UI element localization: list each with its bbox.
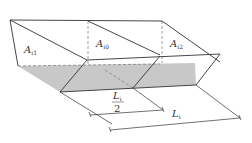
label-half-length-numerator: Li [112,90,122,102]
label-a-i0: Ai0 [95,38,109,50]
prism-diagram: Ai1 Ai0 Ai2 Li 2 Li [0,0,252,143]
diagram-canvas: Ai1 Ai0 Ai2 Li 2 Li [0,0,252,143]
label-length: Li [171,108,181,120]
label-a-i1: Ai1 [23,44,37,56]
label-a-i2: Ai2 [169,38,183,50]
dimension-lines [60,85,241,132]
label-half-length-denominator: 2 [114,103,120,114]
shaded-base [18,63,196,92]
